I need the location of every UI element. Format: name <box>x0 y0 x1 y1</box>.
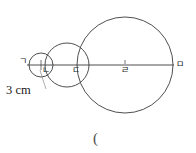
point-rieul-label: ㄹ <box>121 66 129 75</box>
geometry-figure-root: ㄱ ㄴ ㄷ ㄹ ㅁ 3 cm ( <box>0 0 196 153</box>
point-nieun-label: ㄴ <box>42 66 50 75</box>
geometry-diagram <box>0 0 196 153</box>
dimension-label: 3 cm <box>6 84 31 97</box>
point-mieum-label: ㅁ <box>176 60 184 69</box>
trailing-paren: ( <box>93 131 98 146</box>
point-giyeok-label: ㄱ <box>19 57 27 66</box>
point-digeut-label: ㄷ <box>72 66 80 75</box>
